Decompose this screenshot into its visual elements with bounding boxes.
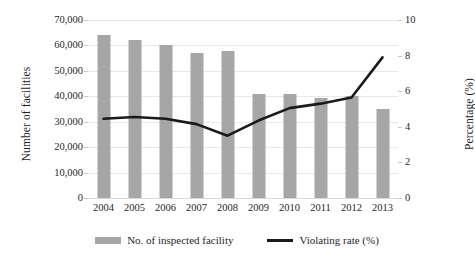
legend-label-bars: No. of inspected facility: [127, 234, 233, 246]
y-axis-right-tick-mark: [398, 56, 402, 57]
x-axis-tick-label: 2006: [155, 202, 176, 213]
plot-area: 010,00020,00030,00040,00050,00060,00070,…: [88, 20, 398, 198]
x-axis-tick-label: 2010: [279, 202, 300, 213]
y-axis-left-tick-mark: [84, 198, 88, 199]
gridline: [88, 198, 398, 199]
x-axis-tick-label: 2009: [248, 202, 269, 213]
y-axis-right-tick-mark: [398, 198, 402, 199]
x-axis-tick-label: 2013: [372, 202, 393, 213]
x-axis-tick-label: 2008: [217, 202, 238, 213]
y-axis-right-tick-mark: [398, 20, 402, 21]
x-axis-tick-label: 2011: [310, 202, 331, 213]
y-axis-left-tick-label: 0: [78, 193, 83, 204]
line-series: [88, 20, 398, 198]
x-axis-tick-label: 2007: [186, 202, 207, 213]
y-axis-right-tick-label: 2: [405, 157, 410, 168]
line-swatch-icon: [267, 239, 293, 242]
x-axis-tick-label: 2012: [341, 202, 362, 213]
y-axis-right-title: Percentage (%): [463, 44, 475, 184]
y-axis-left-tick-label: 20,000: [54, 142, 83, 153]
x-axis-tick-label: 2004: [93, 202, 114, 213]
chart-legend: No. of inspected facility Violating rate…: [0, 234, 474, 246]
y-axis-right-tick-label: 4: [405, 122, 410, 133]
y-axis-right-tick-label: 6: [405, 86, 410, 97]
y-axis-left-tick-label: 30,000: [54, 117, 83, 128]
y-axis-left-title: Number of facilities: [20, 44, 32, 184]
y-axis-right-tick-label: 10: [405, 15, 416, 26]
y-axis-right-tick-mark: [398, 127, 402, 128]
y-axis-right-tick-mark: [398, 91, 402, 92]
violating-rate-line: [104, 57, 383, 135]
legend-item-line: Violating rate (%): [267, 234, 378, 246]
y-axis-right-tick-label: 8: [405, 51, 410, 62]
legend-item-bars: No. of inspected facility: [95, 234, 233, 246]
bar-swatch-icon: [95, 237, 121, 244]
y-axis-right-tick-mark: [398, 162, 402, 163]
y-axis-left-tick-label: 40,000: [54, 91, 83, 102]
y-axis-left-tick-label: 60,000: [54, 40, 83, 51]
legend-label-line: Violating rate (%): [299, 234, 378, 246]
x-axis-labels: 2004200520062007200820092010201120122013: [88, 202, 398, 220]
y-axis-left-tick-label: 70,000: [54, 15, 83, 26]
y-axis-left-tick-label: 10,000: [54, 168, 83, 179]
x-axis-tick-label: 2005: [124, 202, 145, 213]
y-axis-right-tick-label: 0: [405, 193, 410, 204]
y-axis-left-tick-label: 50,000: [54, 66, 83, 77]
